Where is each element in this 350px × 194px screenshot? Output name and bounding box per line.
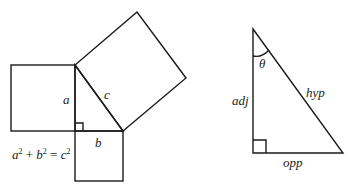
side-label-c: c	[104, 87, 110, 102]
trig-triangle-figure: θ adj hyp opp	[232, 29, 343, 170]
eq-plus: +	[23, 147, 37, 162]
pythagorean-figure: a c b a2 + b2 = c2	[11, 12, 186, 181]
right-angle-marker-right	[253, 140, 266, 153]
angle-label-theta: θ	[259, 56, 266, 71]
diagram-canvas: a c b a2 + b2 = c2 θ adj hyp opp	[0, 0, 350, 194]
right-triangle-abc	[75, 65, 123, 131]
right-angle-marker-left	[75, 123, 83, 131]
eq-c-exp: 2	[66, 147, 70, 156]
side-label-opp: opp	[283, 155, 303, 170]
eq-equals: =	[47, 147, 61, 162]
side-label-adj: adj	[232, 93, 249, 108]
pythagorean-equation: a2 + b2 = c2	[12, 147, 70, 162]
square-c	[75, 12, 186, 131]
side-label-b: b	[95, 135, 102, 150]
side-label-a: a	[63, 92, 70, 107]
side-label-hyp: hyp	[306, 85, 325, 100]
trig-triangle	[253, 29, 343, 153]
